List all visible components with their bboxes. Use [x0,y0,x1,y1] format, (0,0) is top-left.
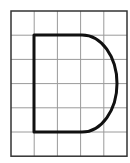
grid-diagram [0,0,130,163]
grid-lines [11,11,127,156]
